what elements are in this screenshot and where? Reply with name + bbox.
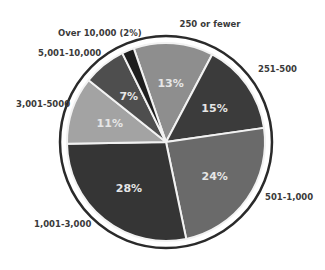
value-label-5-001-10-000: 7% — [119, 90, 138, 103]
value-label-250-or-fewer: 13% — [157, 77, 183, 90]
pie-slices — [67, 43, 265, 241]
category-label-5001-10000: 5,001-10,000 — [38, 48, 101, 58]
category-label-501-1000: 501-1,000 — [265, 192, 313, 202]
category-label-1001-3000: 1,001-3,000 — [34, 219, 91, 229]
category-label-3001-5000: 3,001-5000 — [16, 99, 70, 109]
value-label-1-001-3-000: 28% — [116, 182, 142, 195]
pie-chart: 13%15%24%28%11%7% 250 or fewer 251-500 5… — [0, 0, 325, 270]
category-label-251-500: 251-500 — [258, 64, 297, 74]
value-label-3-001-5000: 11% — [97, 117, 123, 130]
category-label-over-10000: Over 10,000 (2%) — [58, 28, 142, 38]
category-label-250-or-fewer: 250 or fewer — [180, 19, 242, 29]
value-label-501-1-000: 24% — [201, 170, 227, 183]
value-label-251-500: 15% — [201, 102, 227, 115]
